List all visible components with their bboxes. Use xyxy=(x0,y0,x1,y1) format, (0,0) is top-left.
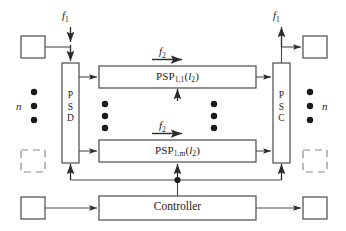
ellipsis-dot xyxy=(31,89,37,95)
f2-top-subscript: 2 xyxy=(162,51,166,60)
ellipsis-dot xyxy=(211,113,217,119)
ellipsis-dot xyxy=(31,117,37,123)
psp-top-paren-close: ) xyxy=(195,70,199,82)
psd-block-label: P S D xyxy=(64,90,78,125)
ellipsis-dot xyxy=(102,113,108,119)
psc-letter-p: P xyxy=(275,90,289,102)
f2-top-label: f2 xyxy=(159,46,166,59)
psd-letter-s: S xyxy=(64,102,78,114)
f2-bottom-label: f2 xyxy=(159,120,166,133)
ellipsis-dot xyxy=(102,125,108,131)
terminal-box-bottom-left xyxy=(21,197,45,219)
ellipsis-dot xyxy=(211,101,217,107)
controller-label: Controller xyxy=(99,201,256,213)
ellipsis-dot xyxy=(102,101,108,107)
psp-top-subscript: 1,1 xyxy=(175,75,185,84)
f1-input-label: f1 xyxy=(62,10,69,23)
psc-block-label: P S C xyxy=(275,90,289,125)
diagram-vector-layer xyxy=(0,0,346,231)
ellipsis-dot xyxy=(307,89,313,95)
right-multiplicity-label: n xyxy=(322,101,328,112)
psc-letter-c: C xyxy=(275,113,289,125)
dashed-placeholder-box-right xyxy=(303,150,327,172)
dashed-placeholder-box-left xyxy=(21,150,45,172)
terminal-box-top-right xyxy=(303,36,327,58)
ellipsis-dot xyxy=(211,125,217,131)
psd-letter-d: D xyxy=(64,113,78,125)
f1-output-label: f1 xyxy=(273,10,280,23)
psd-letter-p: P xyxy=(64,90,78,102)
psp-top-label: PSP1,1(l2) xyxy=(99,71,256,84)
psp-bottom-paren-close: ) xyxy=(196,144,200,156)
terminal-box-bottom-right xyxy=(303,197,327,219)
f1-output-subscript: 1 xyxy=(276,15,280,24)
left-multiplicity-label: n xyxy=(16,101,22,112)
terminal-box-top-left xyxy=(21,36,45,58)
diagram-canvas: f1 f1 f2 f2 n n P S D P S C PSP1,1(l2) P… xyxy=(0,0,346,231)
f2-bottom-subscript: 2 xyxy=(162,125,166,134)
f1-input-subscript: 1 xyxy=(65,15,69,24)
psc-letter-s: S xyxy=(275,102,289,114)
ellipsis-dot xyxy=(307,117,313,123)
psp-bottom-prefix: PSP xyxy=(155,144,174,156)
ellipsis-dot xyxy=(307,103,313,109)
psp-top-prefix: PSP xyxy=(156,70,175,82)
ellipsis-dot xyxy=(31,103,37,109)
psp-bottom-label: PSP1,m(l2) xyxy=(99,145,256,158)
psp-bottom-subscript: 1,m xyxy=(174,149,186,158)
